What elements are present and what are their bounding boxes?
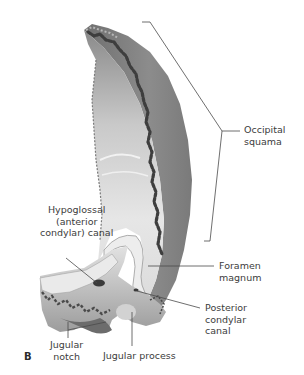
label-hypoglossal-canal: Hypoglossal (anterior condylar) canal xyxy=(40,204,113,239)
jugular-process-surface xyxy=(116,304,136,320)
panel-letter: B xyxy=(24,351,32,362)
occipital-bone-illustration xyxy=(0,0,304,375)
occipital-bone-figure: Occipital squama Hypoglossal (anterior c… xyxy=(0,0,304,375)
label-jugular-notch: Jugular notch xyxy=(50,339,83,362)
label-jugular-process: Jugular process xyxy=(103,350,176,362)
hypoglossal-canal-opening xyxy=(93,280,105,287)
label-foramen-magnum: Foramen magnum xyxy=(219,260,261,283)
label-occipital-squama: Occipital squama xyxy=(244,124,285,147)
label-posterior-condylar-canal: Posterior condylar canal xyxy=(205,302,247,337)
